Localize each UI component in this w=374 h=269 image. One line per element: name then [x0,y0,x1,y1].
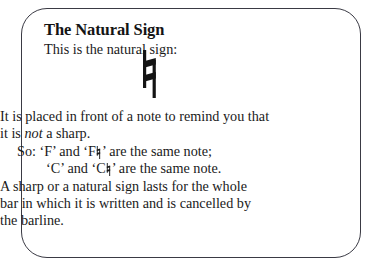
body-line-2-prefix: it is [0,125,24,141]
page-root: The Natural Sign This is the natural sig… [0,0,374,269]
body-line-3: So: ‘F’ and ‘F’ are the same note; [0,143,300,160]
natural-sign-icon-inline-f [96,146,101,159]
body-line-6: bar in which it is written and is cancel… [0,195,300,212]
natural-sign-icon-inline-c [106,163,111,176]
body-line-4-prefix: ‘C’ and ‘C [46,160,106,176]
body-line-3-suffix: ’ are the same note; [102,143,212,159]
card-content: The Natural Sign This is the natural sig… [44,20,344,58]
body-line-5: A sharp or a natural sign lasts for the … [0,178,300,195]
body-line-2-emphasis: not [24,125,42,141]
body-line-4-suffix: ’ are the same note. [112,160,222,176]
natural-sign-icon [134,48,174,100]
body-text-block: It is placed in front of a note to remin… [0,108,300,230]
body-line-2: it is not a sharp. [0,125,300,142]
body-line-2-suffix: a sharp. [43,125,91,141]
page-title: The Natural Sign [44,20,344,39]
body-line-1: It is placed in front of a note to remin… [0,108,300,125]
body-line-7: the barline. [0,212,300,229]
natural-sign-figure [134,48,174,100]
intro-text: This is the natural sign: [44,41,344,58]
body-line-3-prefix: So: ‘F’ and ‘F [17,143,96,159]
body-line-4: ‘C’ and ‘C’ are the same note. [0,160,300,177]
